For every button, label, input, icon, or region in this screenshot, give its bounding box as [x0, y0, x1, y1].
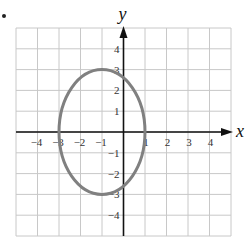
- ellipse-plot: −4−3−2−11234 4321−1−2−3−4 x y: [0, 0, 249, 240]
- axes: [16, 26, 233, 236]
- y-tick-label: −4: [108, 209, 120, 221]
- x-axis-label: x: [235, 121, 244, 141]
- y-axis-label: y: [117, 4, 127, 24]
- x-tick-label: 3: [186, 136, 192, 148]
- y-tick-label: 2: [114, 84, 120, 96]
- y-tick-label: −2: [108, 168, 120, 180]
- y-tick-label: 1: [114, 105, 120, 117]
- x-tick-label: −2: [74, 136, 86, 148]
- x-tick-label: 2: [165, 136, 171, 148]
- x-tick-label: −4: [31, 136, 43, 148]
- y-tick-label: 4: [114, 43, 120, 55]
- y-tick-label: −1: [108, 147, 120, 159]
- x-tick-label: 4: [208, 136, 214, 148]
- x-tick-label: −1: [95, 136, 107, 148]
